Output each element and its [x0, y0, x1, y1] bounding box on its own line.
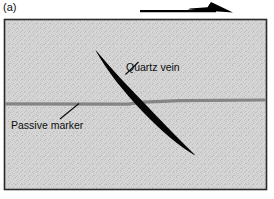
panel-label: (a) [3, 1, 16, 14]
diagram-box [4, 19, 267, 190]
figure-panel: (a) [0, 0, 274, 199]
quartz-vein-label: Quartz vein [126, 61, 180, 73]
passive-marker-label: Passive marker [11, 119, 83, 131]
right-arrow-icon [138, 0, 238, 18]
